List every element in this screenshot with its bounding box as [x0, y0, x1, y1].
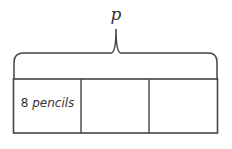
part-1-label: 8 pencils — [14, 96, 81, 110]
total-label: p — [108, 4, 124, 24]
part-1-unit: pencils — [32, 96, 74, 110]
part-1-value: 8 — [21, 96, 29, 110]
brace-icon — [14, 29, 217, 79]
